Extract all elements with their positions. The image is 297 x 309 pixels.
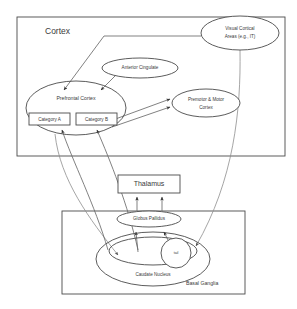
edge-caudate-to-category-a — [62, 130, 108, 250]
visual-cortical-areas-label-line2: Areas (e.g., IT) — [225, 34, 256, 39]
node-caudate-nucleus[interactable]: Caudate Nucleus — [96, 232, 210, 286]
prefrontal-cortex-ellipse — [26, 81, 126, 135]
cortex-frame-label: Cortex — [45, 26, 71, 36]
visual-cortical-areas-label-line1: Visual Cortical — [225, 26, 254, 31]
edge-prefrontal-to-caudate — [55, 134, 118, 255]
node-globus-pallidus[interactable]: Globus Pallidus — [117, 211, 181, 227]
premotor-motor-cortex-ellipse — [172, 89, 240, 117]
caudate-tail-label: tail — [174, 251, 179, 255]
diagram-svg: Cortex Basal Ganglia — [0, 0, 297, 309]
node-thalamus[interactable]: Thalamus — [118, 175, 180, 193]
visual-cortical-areas-ellipse — [201, 16, 279, 50]
diagram-canvas: Cortex Basal Ganglia — [0, 0, 297, 309]
category-b-label: Category B — [85, 117, 108, 122]
node-premotor-motor-cortex[interactable]: Premotor & Motor Cortex — [172, 89, 240, 117]
node-category-b[interactable]: Category B — [76, 113, 117, 125]
premotor-motor-cortex-label-line1: Premotor & Motor — [188, 97, 225, 102]
node-prefrontal-cortex[interactable]: Prefrontal Cortex — [26, 81, 126, 135]
anterior-cingulate-label: Anterior Cingulate — [122, 65, 159, 70]
node-category-a[interactable]: Category A — [29, 113, 70, 125]
prefrontal-cortex-label: Prefrontal Cortex — [56, 95, 96, 101]
node-visual-cortical-areas[interactable]: Visual Cortical Areas (e.g., IT) — [201, 16, 279, 50]
edge-visual-to-caudate-tail — [196, 50, 240, 246]
thalamus-label: Thalamus — [134, 180, 165, 187]
caudate-nucleus-ellipse — [96, 232, 210, 286]
globus-pallidus-label: Globus Pallidus — [133, 216, 166, 221]
category-a-label: Category A — [38, 117, 62, 122]
caudate-nucleus-label: Caudate Nucleus — [135, 272, 171, 277]
premotor-motor-cortex-label-line2: Cortex — [199, 105, 213, 110]
node-caudate-tail[interactable]: tail — [161, 238, 191, 268]
node-anterior-cingulate[interactable]: Anterior Cingulate — [102, 58, 178, 78]
basal-ganglia-frame-label: Basal Ganglia — [186, 280, 218, 286]
